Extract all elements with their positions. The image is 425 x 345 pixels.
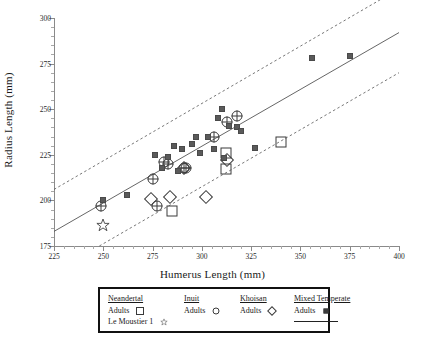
x-tick-label-400: 400 <box>379 252 419 261</box>
x-tick-minor <box>182 246 183 249</box>
data-point <box>167 206 178 217</box>
x-tick-label-250: 250 <box>83 252 123 261</box>
y-tick-minor <box>51 100 54 101</box>
data-point <box>219 106 225 112</box>
legend-entry: Adults <box>240 305 294 316</box>
y-tick-minor <box>51 36 54 37</box>
x-tick-minor <box>241 246 242 249</box>
x-tick-label-325: 325 <box>231 252 271 261</box>
x-tick-minor <box>379 246 380 249</box>
x-tick-minor <box>143 246 144 249</box>
data-point <box>221 155 227 161</box>
data-point <box>147 173 158 184</box>
y-tick-minor <box>51 237 54 238</box>
x-tick-minor <box>172 246 173 249</box>
legend-entry: Adults <box>184 305 240 316</box>
y-tick-label-200: 200 <box>11 196 51 205</box>
x-tick-minor <box>64 246 65 249</box>
x-tick-minor <box>74 246 75 249</box>
x-tick-350 <box>300 246 301 251</box>
legend-symbol-small-dot-icon <box>321 306 331 316</box>
y-tick-minor <box>51 91 54 92</box>
y-tick-minor <box>51 219 54 220</box>
x-tick-400 <box>399 246 400 251</box>
x-tick-minor <box>212 246 213 249</box>
y-tick-label-275: 275 <box>11 59 51 68</box>
x-tick-225 <box>54 246 55 251</box>
data-point <box>175 168 181 174</box>
legend-entry <box>294 316 350 327</box>
x-tick-minor <box>281 246 282 249</box>
y-tick-minor <box>51 73 54 74</box>
x-tick-minor <box>162 246 163 249</box>
x-tick-375 <box>350 246 351 251</box>
y-tick-minor <box>51 82 54 83</box>
y-tick-minor <box>51 54 54 55</box>
legend-symbol-open-circle-icon <box>211 306 221 316</box>
legend-header-khoisan: Khoisan <box>240 294 294 305</box>
x-tick-minor <box>192 246 193 249</box>
legend-header-neandertal: Neandertal <box>108 294 184 305</box>
data-point <box>211 146 217 152</box>
x-tick-minor <box>133 246 134 249</box>
legend-header-inuit: Inuit <box>184 294 240 305</box>
x-tick-minor <box>84 246 85 249</box>
data-point <box>165 154 171 160</box>
data-point <box>197 150 203 156</box>
x-tick-minor <box>389 246 390 249</box>
legend-entry-label: Adults <box>108 306 129 316</box>
x-tick-minor <box>310 246 311 249</box>
x-tick-minor <box>340 246 341 249</box>
x-tick-300 <box>202 246 203 251</box>
x-tick-label-375: 375 <box>330 252 370 261</box>
data-point <box>179 146 185 152</box>
legend-symbol-regression-line <box>294 321 338 322</box>
y-tick-minor <box>51 182 54 183</box>
data-point <box>124 192 130 198</box>
data-point <box>205 134 211 140</box>
data-point <box>309 55 315 61</box>
x-tick-minor <box>113 246 114 249</box>
fit-lines-group <box>54 18 399 246</box>
x-tick-325 <box>251 246 252 251</box>
y-tick-minor <box>51 118 54 119</box>
x-tick-minor <box>330 246 331 249</box>
data-point <box>97 218 110 231</box>
y-tick-minor <box>51 173 54 174</box>
fit-line-lower-prediction-band <box>99 73 399 246</box>
data-point <box>226 123 232 129</box>
y-tick-minor <box>51 127 54 128</box>
x-tick-minor <box>271 246 272 249</box>
x-tick-minor <box>369 246 370 249</box>
x-axis-title: Humerus Length (mm) <box>0 268 425 280</box>
x-tick-label-350: 350 <box>280 252 320 261</box>
data-point <box>275 137 286 148</box>
x-tick-minor <box>222 246 223 249</box>
x-tick-275 <box>153 246 154 251</box>
data-point <box>152 152 158 158</box>
y-tick-minor <box>51 228 54 229</box>
legend-entry-label: Le Moustier 1 <box>108 317 153 327</box>
y-tick-minor <box>51 27 54 28</box>
y-tick-label-250: 250 <box>11 105 51 114</box>
data-point <box>347 53 353 59</box>
y-tick-minor <box>51 45 54 46</box>
legend-symbol-open-square-icon <box>135 306 145 316</box>
data-point <box>171 143 177 149</box>
x-tick-minor <box>231 246 232 249</box>
data-point <box>232 111 243 122</box>
y-tick-minor <box>51 210 54 211</box>
data-point <box>193 134 199 140</box>
x-tick-minor <box>320 246 321 249</box>
legend-entry: Adults <box>108 305 184 316</box>
x-tick-minor <box>123 246 124 249</box>
x-axis-line <box>54 246 399 247</box>
x-tick-label-275: 275 <box>133 252 173 261</box>
legend-entry-label: Adults <box>294 306 315 316</box>
x-tick-label-300: 300 <box>182 252 222 261</box>
x-tick-minor <box>291 246 292 249</box>
plot-area: 175200225250275300 225250275300325350375… <box>54 18 399 246</box>
data-point <box>238 128 244 134</box>
legend-symbol-open-diamond-icon <box>267 306 277 316</box>
data-point <box>100 197 106 203</box>
